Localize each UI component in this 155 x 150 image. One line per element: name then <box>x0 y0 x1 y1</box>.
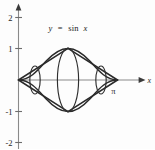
equation-function-name: sin <box>68 23 79 33</box>
lower-left-chord <box>19 80 69 112</box>
lower-sine-curve <box>19 80 118 112</box>
equation-operator: = <box>58 23 63 33</box>
y-tick-label-2: 2 <box>8 13 12 23</box>
upper-right-chord <box>68 48 118 80</box>
y-tick-label-1: 1 <box>8 44 12 54</box>
x-tick-label-pi: π <box>111 86 116 96</box>
equation-label-group: y = sin x <box>48 23 88 33</box>
upper-left-chord <box>19 48 69 80</box>
lower-right-chord <box>68 80 118 112</box>
sin-solid-of-revolution-plot: 2 1 -1 -2 x π y = sin <box>0 0 155 149</box>
y-axis-arrowhead <box>16 4 22 11</box>
equation-variable: y <box>48 23 53 33</box>
y-tick-label-minus-1: -1 <box>5 107 12 117</box>
upper-sine-curve <box>19 48 118 80</box>
y-axis-group: 2 1 -1 -2 <box>5 4 22 150</box>
x-axis-label: x <box>147 76 152 85</box>
figure-canvas: 2 1 -1 -2 x π y = sin <box>0 0 155 149</box>
x-axis-arrowhead <box>139 77 146 83</box>
equation-label: y = sin x <box>48 23 88 33</box>
equation-argument: x <box>83 23 88 33</box>
y-tick-label-minus-2: -2 <box>5 138 12 148</box>
